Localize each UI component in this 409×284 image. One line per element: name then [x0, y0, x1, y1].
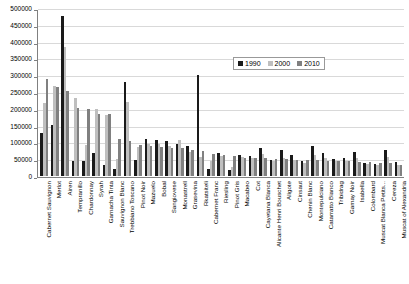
bar [46, 79, 49, 176]
y-axis-tick-label: 50000 [0, 157, 32, 164]
bar-chart: 0500001000001500002000002500003000003500… [0, 0, 409, 284]
x-axis-tick-slot: Cinsaut [289, 180, 299, 284]
bar [306, 160, 309, 176]
bar-group [237, 10, 247, 176]
y-axis-tick-mark [34, 77, 37, 78]
x-axis-tick-slot: Garnacha Tinta [101, 180, 111, 284]
bar-group [289, 10, 299, 176]
bar [316, 160, 319, 176]
x-axis-tick-slot: Chardonnay [80, 180, 90, 284]
bar [171, 148, 174, 176]
legend-label: 2010 [304, 60, 320, 67]
plot-area [37, 10, 404, 178]
bar-group [352, 10, 362, 176]
legend-swatch [297, 61, 302, 66]
bar-group [393, 10, 403, 176]
bar [264, 158, 267, 176]
bar [181, 148, 184, 176]
bar [327, 161, 330, 176]
y-axis-tick-mark [34, 144, 37, 145]
y-axis-tick-mark [34, 10, 37, 11]
legend-item: 2010 [297, 60, 320, 67]
bar-group [279, 10, 289, 176]
bar-group [227, 10, 237, 176]
bar-group [112, 10, 122, 176]
x-axis-tick-slot: Bobal [153, 180, 163, 284]
bar-group [341, 10, 351, 176]
bar [254, 158, 257, 176]
bar [212, 154, 215, 176]
bar-group [102, 10, 112, 176]
y-axis-tick-label: 250000 [0, 90, 32, 97]
legend-swatch [268, 61, 273, 66]
x-axis-tick-slot: Monastrell [174, 180, 184, 284]
legend-label: 2000 [275, 60, 291, 67]
bar [202, 151, 205, 176]
bar [379, 163, 382, 176]
y-axis-tick-mark [34, 161, 37, 162]
x-axis-tick-slot: Alicante Henri Bouschet [268, 180, 278, 284]
x-axis-tick-label: Muscat of Alexandria [401, 181, 407, 238]
bar [400, 165, 403, 176]
bars-container [39, 10, 404, 176]
legend-swatch [238, 61, 243, 66]
y-axis-tick-label: 450000 [0, 23, 32, 30]
y-axis-tick-label: 500000 [0, 6, 32, 13]
x-axis-tick-slot: Cayetana Blanca [258, 180, 268, 284]
bar [244, 158, 247, 176]
y-axis-tick-mark [34, 111, 37, 112]
bar [369, 162, 372, 176]
y-axis-tick-mark [34, 60, 37, 61]
bar-group [362, 10, 372, 176]
bar [56, 87, 59, 176]
bar-group [164, 10, 174, 176]
x-axis-tick-slot: Rkatsiteli [195, 180, 205, 284]
bar [348, 161, 351, 176]
x-axis-tick-slot: Grasevina [184, 180, 194, 284]
y-axis-tick-label: 300000 [0, 73, 32, 80]
bar [129, 141, 132, 176]
bar-group [331, 10, 341, 176]
x-axis-tick-slot: Muscat Blanca Petits... [373, 180, 383, 284]
x-axis-tick-slot: Montepulciano [310, 180, 320, 284]
bar-group [268, 10, 278, 176]
x-axis-tick-slot: Cabernet Franc [205, 180, 215, 284]
bar [108, 114, 111, 176]
bar [98, 114, 101, 176]
bar-group [216, 10, 226, 176]
x-axis-tick-slot: Sauvignon Blanc [111, 180, 121, 284]
x-axis-tick-slot: Gamay Noir [341, 180, 351, 284]
y-axis-tick-mark [34, 44, 37, 45]
x-axis-tick-slot: Colombard [362, 180, 372, 284]
bar [223, 155, 226, 176]
y-axis-tick-label: 100000 [0, 140, 32, 147]
x-axis-tick-slot: Syrah [90, 180, 100, 284]
bar [139, 145, 142, 176]
x-axis-tick-slot: Cot [247, 180, 257, 284]
x-axis-tick-slot: Tribidrag [331, 180, 341, 284]
legend-item: 2000 [268, 60, 291, 67]
bar-group [81, 10, 91, 176]
bar-group [143, 10, 153, 176]
bar-group [310, 10, 320, 176]
bar [275, 159, 278, 176]
bar [285, 159, 288, 176]
bar-group [195, 10, 205, 176]
bar-group [383, 10, 393, 176]
y-axis-tick-mark [34, 178, 37, 179]
x-axis-tick-labels: Cabernet SauvignonMerlotAirenTempranillo… [38, 180, 404, 284]
bar-group [320, 10, 330, 176]
bar-group [49, 10, 59, 176]
y-axis-tick-label: 150000 [0, 124, 32, 131]
x-axis-tick-slot: Muscat of Alexandria [393, 180, 403, 284]
bar-group [373, 10, 383, 176]
bar [337, 161, 340, 176]
x-axis-tick-slot: Chenin Blanc [299, 180, 309, 284]
y-axis-tick-mark [34, 128, 37, 129]
legend-item: 1990 [238, 60, 261, 67]
bar [118, 139, 121, 176]
x-axis-tick-slot: Pinot Noir [132, 180, 142, 284]
chart-legend: 199020002010 [233, 57, 325, 70]
x-axis-tick-slot: Tempranillo [69, 180, 79, 284]
y-axis-tick-mark [34, 27, 37, 28]
